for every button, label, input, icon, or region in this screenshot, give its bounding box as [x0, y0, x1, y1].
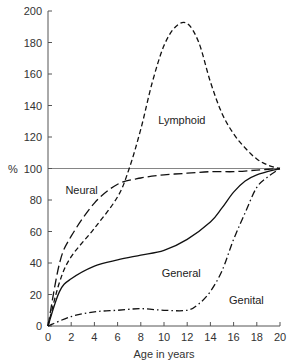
- y-tick-label: 0: [36, 320, 42, 332]
- x-axis-label: Age in years: [133, 348, 195, 360]
- x-tick-label: 12: [181, 331, 193, 343]
- y-tick-label: 100: [24, 163, 42, 175]
- y-tick-label: 20: [30, 289, 42, 301]
- x-tick-label: 20: [274, 331, 286, 343]
- series-label-general: General: [162, 267, 201, 279]
- series-label-neural: Neural: [65, 184, 97, 196]
- y-tick-label: 200: [24, 5, 42, 17]
- y-tick-label: 140: [24, 100, 42, 112]
- y-tick-label: 160: [24, 68, 42, 80]
- y-tick-label: 80: [30, 194, 42, 206]
- x-tick-label: 8: [138, 331, 144, 343]
- series-label-lymphoid: Lymphoid: [158, 114, 205, 126]
- series-labels: LymphoidNeuralGeneralGenital: [65, 114, 263, 306]
- y-tick-label: 180: [24, 37, 42, 49]
- y-tick-label: 120: [24, 131, 42, 143]
- x-tick-label: 0: [45, 331, 51, 343]
- x-tick-label: 2: [68, 331, 74, 343]
- x-tick-label: 10: [158, 331, 170, 343]
- y-axis-label: %: [8, 163, 18, 175]
- axes: 0204060801001201401601802000246810121416…: [24, 5, 286, 343]
- x-tick-label: 6: [115, 331, 121, 343]
- series-lines: [48, 22, 280, 326]
- x-tick-label: 14: [204, 331, 216, 343]
- x-tick-label: 18: [251, 331, 263, 343]
- y-tick-label: 40: [30, 257, 42, 269]
- series-label-genital: Genital: [229, 294, 264, 306]
- growth-curves-chart: 0204060801001201401601802000246810121416…: [0, 0, 291, 364]
- y-tick-label: 60: [30, 226, 42, 238]
- x-tick-label: 16: [227, 331, 239, 343]
- x-tick-label: 4: [91, 331, 97, 343]
